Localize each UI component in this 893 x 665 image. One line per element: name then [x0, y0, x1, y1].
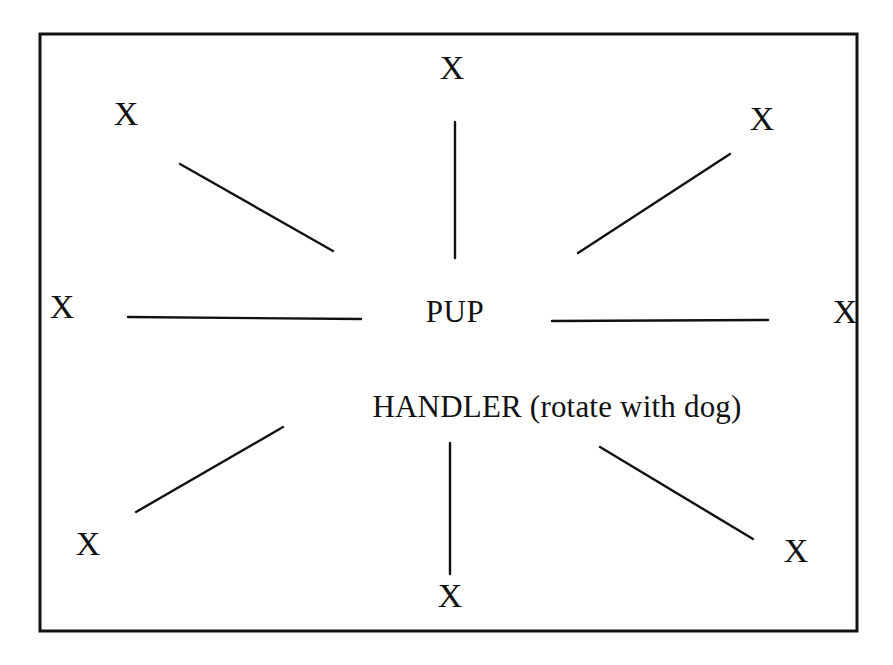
marker-right: X	[833, 295, 858, 329]
marker-left: X	[50, 290, 75, 324]
marker-top-right: X	[750, 102, 775, 136]
marker-top: X	[440, 51, 465, 85]
pup-center-label: PUP	[426, 294, 484, 330]
diagram-frame-border	[40, 34, 857, 631]
marker-bottom-left: X	[76, 527, 101, 561]
handler-instruction-label: HANDLER (rotate with dog)	[372, 389, 741, 425]
spoke-right	[552, 320, 768, 321]
diagram-page: PUP HANDLER (rotate with dog) XXXXXXXX	[0, 0, 893, 665]
marker-top-left: X	[114, 97, 139, 131]
marker-bottom-right: X	[784, 534, 809, 568]
marker-bottom: X	[438, 579, 463, 613]
